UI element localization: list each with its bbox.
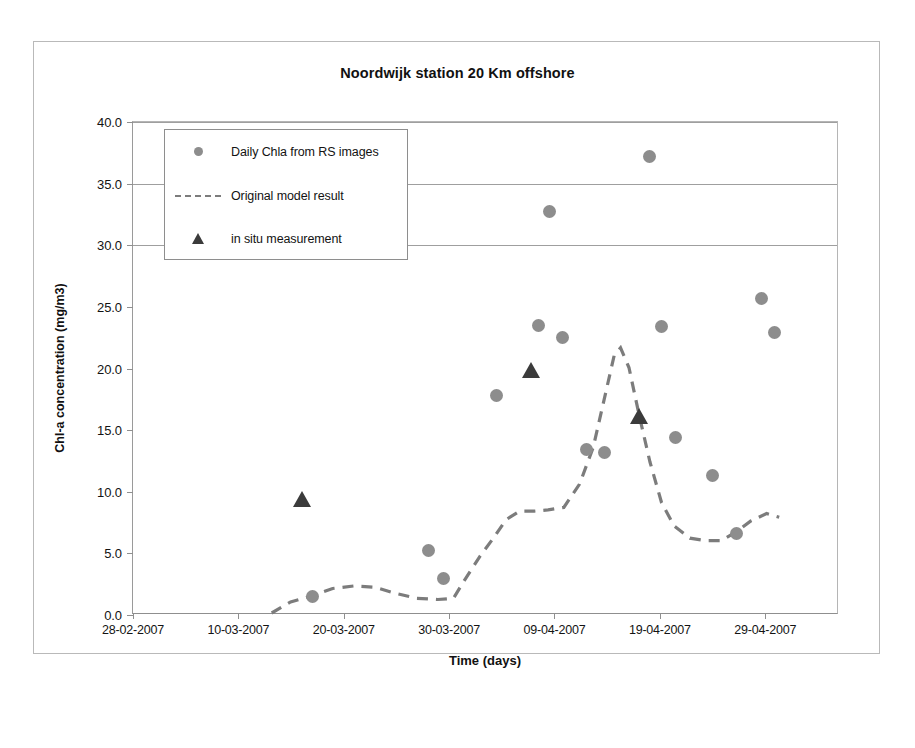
dashed-line-icon bbox=[165, 195, 231, 197]
y-axis-tick bbox=[127, 122, 133, 123]
daily-chla-data-point bbox=[643, 150, 656, 163]
daily-chla-data-point bbox=[556, 331, 569, 344]
daily-chla-data-point bbox=[580, 443, 593, 456]
in-situ-data-point bbox=[522, 362, 540, 378]
in-situ-data-point bbox=[630, 408, 648, 424]
daily-chla-data-point bbox=[532, 319, 545, 332]
daily-chla-data-point bbox=[669, 431, 682, 444]
y-axis-tick bbox=[127, 430, 133, 431]
y-axis-tick-label: 40.0 bbox=[97, 115, 122, 130]
x-axis-tick-label: 10-03-2007 bbox=[207, 623, 269, 637]
y-axis-tick-label: 0.0 bbox=[104, 608, 122, 623]
in-situ-data-point bbox=[293, 491, 311, 507]
daily-chla-data-point bbox=[730, 527, 743, 540]
legend-item-original-model: Original model result bbox=[165, 174, 407, 217]
y-axis-tick bbox=[127, 553, 133, 554]
x-axis-tick-label: 30-03-2007 bbox=[418, 623, 480, 637]
legend-item-in-situ: in situ measurement bbox=[165, 217, 407, 260]
y-axis-tick-label: 35.0 bbox=[97, 176, 122, 191]
circle-marker-icon bbox=[165, 147, 231, 156]
x-axis-tick bbox=[449, 613, 450, 619]
legend-item-daily-chla: Daily Chla from RS images bbox=[165, 130, 407, 173]
daily-chla-data-point bbox=[598, 446, 611, 459]
x-axis-tick bbox=[133, 613, 134, 619]
x-axis-tick bbox=[344, 613, 345, 619]
y-axis-tick-label: 10.0 bbox=[97, 484, 122, 499]
y-axis-tick-label: 20.0 bbox=[97, 361, 122, 376]
y-axis-tick-label: 15.0 bbox=[97, 423, 122, 438]
x-axis-tick-label: 28-02-2007 bbox=[102, 623, 164, 637]
legend-label: Daily Chla from RS images bbox=[231, 145, 379, 159]
daily-chla-data-point bbox=[306, 590, 319, 603]
daily-chla-data-point bbox=[543, 205, 556, 218]
daily-chla-data-point bbox=[437, 572, 450, 585]
y-axis-tick bbox=[127, 245, 133, 246]
daily-chla-data-point bbox=[706, 469, 719, 482]
y-axis-tick bbox=[127, 492, 133, 493]
legend-label: Original model result bbox=[231, 189, 344, 203]
y-axis-title-label: Chl-a concentration (mg/m3) bbox=[53, 283, 67, 452]
daily-chla-data-point bbox=[768, 326, 781, 339]
gridline bbox=[133, 122, 837, 123]
x-axis-tick bbox=[765, 613, 766, 619]
daily-chla-data-point bbox=[490, 389, 503, 402]
x-axis-tick-label: 19-04-2007 bbox=[629, 623, 691, 637]
y-axis-tick-label: 5.0 bbox=[104, 546, 122, 561]
x-axis-tick bbox=[554, 613, 555, 619]
original-model-result-path bbox=[272, 348, 780, 613]
y-axis-tick bbox=[127, 369, 133, 370]
x-axis-tick-label: 20-03-2007 bbox=[313, 623, 375, 637]
x-axis-tick bbox=[238, 613, 239, 619]
chart-legend: Daily Chla from RS images Original model… bbox=[164, 129, 408, 260]
daily-chla-data-point bbox=[422, 544, 435, 557]
y-axis-title: Chl-a concentration (mg/m3) bbox=[52, 121, 68, 614]
x-axis-tick-label: 29-04-2007 bbox=[734, 623, 796, 637]
y-axis-tick bbox=[127, 184, 133, 185]
chart-title: Noordwijk station 20 Km offshore bbox=[34, 65, 881, 81]
y-axis-tick-label: 30.0 bbox=[97, 238, 122, 253]
daily-chla-data-point bbox=[755, 292, 768, 305]
y-axis-tick bbox=[127, 307, 133, 308]
legend-label: in situ measurement bbox=[231, 232, 342, 246]
daily-chla-data-point bbox=[655, 320, 668, 333]
x-axis-tick bbox=[660, 613, 661, 619]
x-axis-tick-label: 09-04-2007 bbox=[524, 623, 586, 637]
triangle-marker-icon bbox=[165, 233, 231, 244]
y-axis-tick-label: 25.0 bbox=[97, 299, 122, 314]
figure-frame: Noordwijk station 20 Km offshore Chl-a c… bbox=[33, 41, 880, 654]
x-axis-title: Time (days) bbox=[132, 653, 838, 668]
